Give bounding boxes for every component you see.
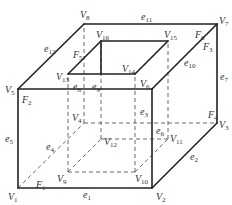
edge-label-e2: e2 <box>190 151 198 164</box>
edge-label-e12: e12 <box>44 43 56 56</box>
vertex-label-v8: V8 <box>80 9 90 22</box>
edge-label-e8: e8 <box>73 81 81 94</box>
edge-label-e7: e7 <box>220 71 228 84</box>
face-label-f2: F2 <box>21 94 32 107</box>
vertex-label-v5: V5 <box>5 84 15 97</box>
vertex-label-v1: V1 <box>8 191 18 204</box>
face-label-f5: F5 <box>72 49 83 62</box>
vertex-label-v3: V3 <box>219 119 229 132</box>
vertex-label-v4: V4 <box>72 112 82 125</box>
edge-label-e1: e1 <box>83 189 91 202</box>
edge-label-e6: e6 <box>156 125 164 138</box>
edge-label-e11: e11 <box>141 11 153 24</box>
vertex-label-v11: V11 <box>170 133 183 146</box>
edge-label-e9: e9 <box>92 81 100 94</box>
vertex-label-v12: V12 <box>104 136 118 149</box>
vertex-label-v13: V13 <box>56 71 70 84</box>
labels: V1V2V3V4V5V6V7V8V9V10V11V12V13V14V15V16e… <box>5 9 229 204</box>
edge-label-e10: e10 <box>184 57 196 70</box>
frame-polyhedron-diagram: V1V2V3V4V5V6V7V8V9V10V11V12V13V14V15V16e… <box>0 0 232 205</box>
edge-V14-V15 <box>135 41 168 74</box>
face-label-f3: F3 <box>202 41 213 54</box>
face-label-f1: F1 <box>35 179 46 192</box>
hidden-edge-V1-V4 <box>18 123 84 188</box>
edge-label-e4: e4 <box>46 141 54 154</box>
vertex-label-v7: V7 <box>219 15 229 28</box>
vertex-label-v2: V2 <box>156 191 166 204</box>
edge-label-e3: e3 <box>140 106 148 119</box>
edge-label-e5: e5 <box>5 133 13 146</box>
vertex-label-v9: V9 <box>57 173 67 186</box>
face-label-f6: F6 <box>194 29 205 42</box>
vertex-label-v10: V10 <box>135 173 149 186</box>
vertex-label-v16: V16 <box>96 29 110 42</box>
hidden-edge-V9-V12 <box>68 139 101 172</box>
vertex-label-v15: V15 <box>164 29 178 42</box>
